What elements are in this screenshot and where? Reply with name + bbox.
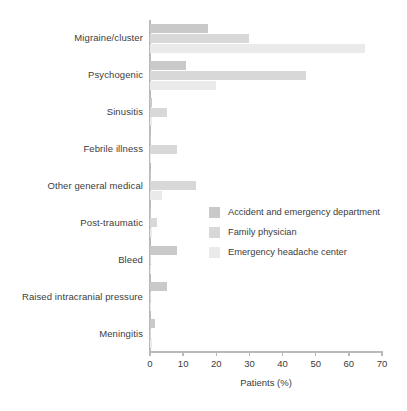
plot-area — [150, 20, 382, 352]
bar-group — [150, 24, 382, 52]
x-axis-tick — [182, 352, 184, 356]
x-axis-tick-label: 30 — [234, 358, 264, 369]
y-axis-category-label: Psychogenic — [0, 69, 143, 80]
legend-swatch-icon — [209, 227, 220, 238]
x-axis-tick — [348, 352, 350, 356]
x-axis-tick-label: 10 — [168, 358, 198, 369]
bar-group — [150, 319, 382, 347]
bar — [150, 44, 365, 53]
y-axis-category-label: Migraine/cluster — [0, 32, 143, 43]
bar — [150, 34, 249, 43]
x-axis-tick — [282, 352, 284, 356]
bar-group — [150, 282, 382, 310]
bar — [150, 71, 306, 80]
legend-item-accident-and-emergency-department: Accident and emergency department — [209, 206, 389, 219]
legend-item-family-physician: Family physician — [209, 226, 389, 239]
bar — [150, 108, 167, 117]
y-axis-category-label: Raised intracranial pressure — [0, 291, 143, 302]
bar-group — [150, 172, 382, 200]
bar — [150, 154, 151, 163]
bar — [150, 319, 155, 328]
y-axis-category-label: Sinusitis — [0, 106, 143, 117]
bar — [150, 61, 186, 70]
bar — [150, 181, 196, 190]
legend-item-emergency-headache-center: Emergency headache center — [209, 246, 389, 259]
x-axis-tick — [315, 352, 317, 356]
bar — [150, 98, 152, 107]
y-axis-category-label: Meningitis — [0, 328, 143, 339]
bar — [150, 117, 152, 126]
x-axis-tick-label: 70 — [367, 358, 397, 369]
y-axis-category-label: Bleed — [0, 254, 143, 265]
bar-group — [150, 61, 382, 89]
bar — [150, 255, 151, 264]
legend-item-label: Emergency headache center — [228, 246, 389, 259]
bar — [150, 265, 151, 274]
y-axis-category-label: Febrile illness — [0, 143, 143, 154]
bar — [150, 228, 152, 237]
legend-swatch-icon — [209, 207, 220, 218]
bar — [150, 135, 151, 144]
bar-group — [150, 135, 382, 163]
x-axis-tick-label: 50 — [301, 358, 331, 369]
x-axis-tick-label: 0 — [135, 358, 165, 369]
x-axis-tick — [216, 352, 218, 356]
bar — [150, 329, 151, 338]
bar — [150, 218, 157, 227]
bar — [150, 81, 216, 90]
bar — [150, 282, 167, 291]
x-axis-tick — [149, 352, 151, 356]
bar — [150, 24, 208, 33]
x-axis-tick-label: 40 — [268, 358, 298, 369]
bar — [150, 191, 162, 200]
x-axis-title: Patients (%) — [150, 377, 382, 388]
y-axis-category-label: Other general medical — [0, 180, 143, 191]
chart-legend: Accident and emergency department Family… — [209, 206, 389, 266]
y-axis-category-label: Post-traumatic — [0, 217, 143, 228]
x-axis-tick — [381, 352, 383, 356]
x-axis-tick-label: 20 — [201, 358, 231, 369]
legend-swatch-icon — [209, 247, 220, 258]
legend-item-label: Family physician — [228, 226, 389, 239]
legend-item-label: Accident and emergency department — [228, 206, 389, 219]
bar — [150, 246, 177, 255]
bar-chart: Migraine/clusterPsychogenicSinusitisFebr… — [0, 0, 407, 411]
bar — [150, 145, 177, 154]
bar-group — [150, 98, 382, 126]
bar — [150, 302, 151, 311]
x-axis-tick-label: 60 — [334, 358, 364, 369]
bar — [150, 172, 151, 181]
bar — [150, 292, 151, 301]
x-axis-tick — [249, 352, 251, 356]
bar — [150, 339, 152, 348]
bar — [150, 209, 151, 218]
